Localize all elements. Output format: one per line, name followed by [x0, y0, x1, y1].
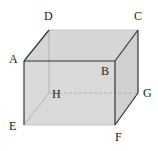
vertex-label-h: H [52, 87, 61, 101]
vertex-label-d: D [44, 9, 53, 23]
vertex-label-a: A [9, 52, 18, 66]
cuboid-diagram: A B C D E F G H [0, 0, 158, 151]
vertex-label-g: G [143, 86, 152, 100]
vertex-label-e: E [9, 119, 16, 133]
vertex-label-b: B [101, 64, 109, 78]
vertex-label-f: F [115, 130, 122, 144]
vertex-label-c: C [134, 9, 142, 23]
